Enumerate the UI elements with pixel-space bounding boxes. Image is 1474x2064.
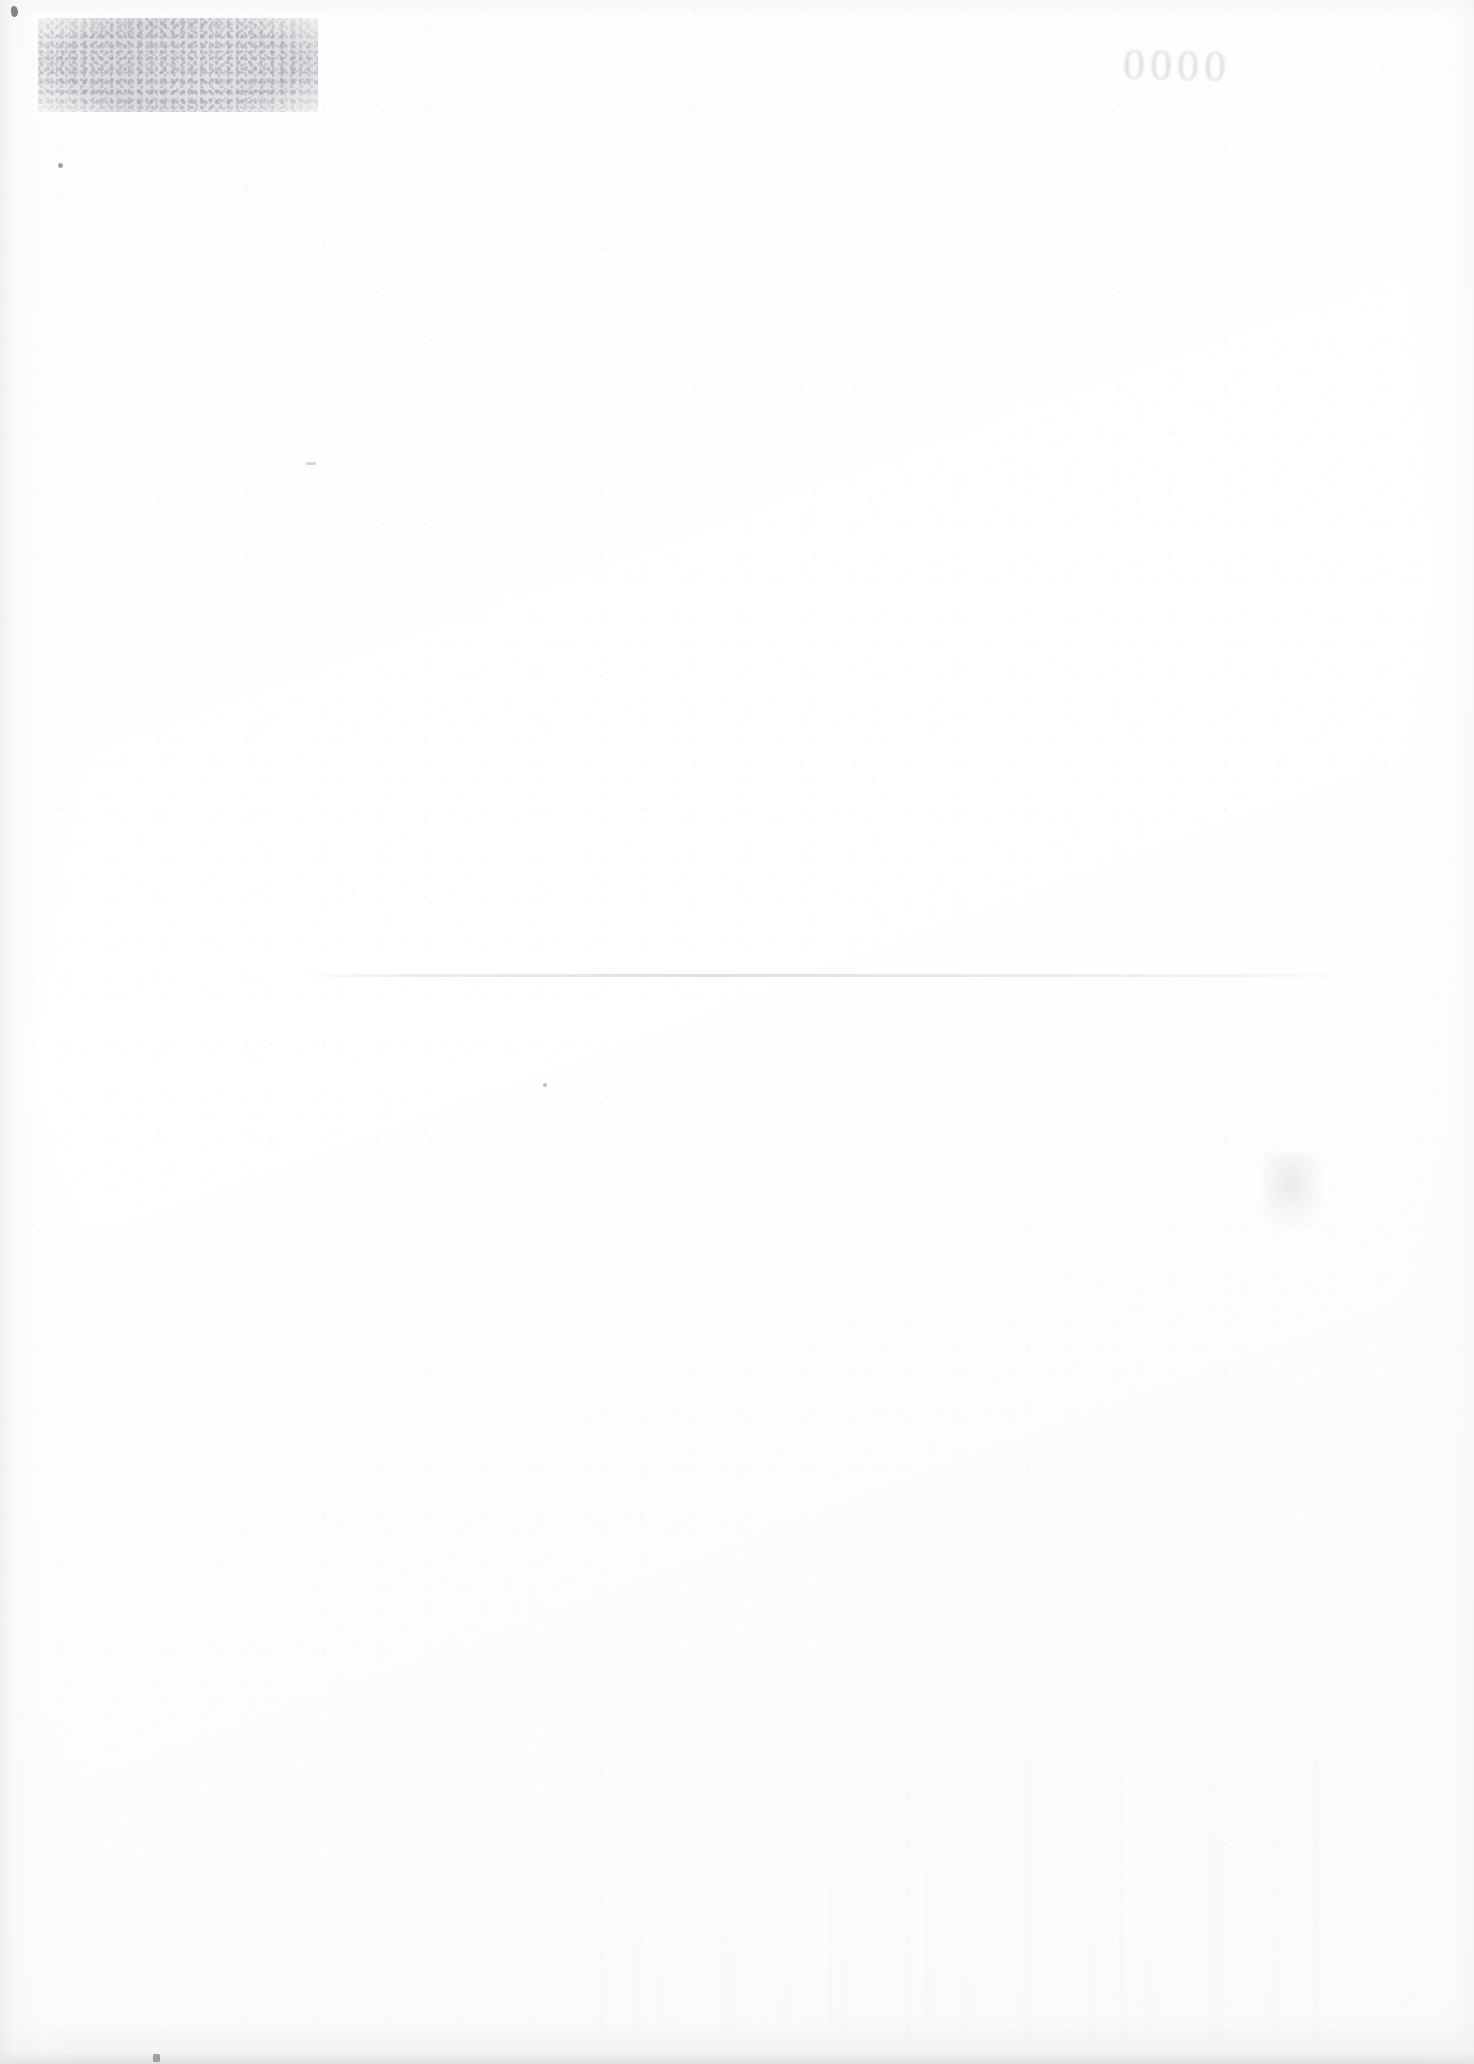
speck-center: [543, 1083, 547, 1087]
scanned-page: 0000: [0, 0, 1474, 2064]
speck-top-left-corner: [11, 6, 18, 17]
ink-stamp-smudge: [38, 18, 318, 112]
speck-upper-middle: [306, 462, 316, 465]
fold-crease: [300, 974, 1360, 977]
paper-grain-texture: [0, 0, 1474, 2064]
faint-show-through-smudge: [1262, 1152, 1324, 1230]
speck-top-left-lower: [58, 163, 63, 168]
scan-streaks: [600, 1760, 1320, 2060]
bleed-through-mark: 0000: [1035, 34, 1226, 98]
speck-bottom-left: [153, 2054, 160, 2062]
